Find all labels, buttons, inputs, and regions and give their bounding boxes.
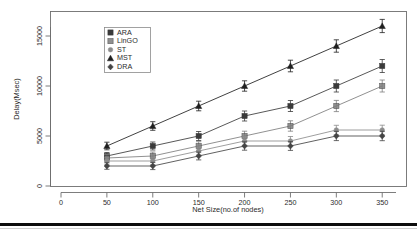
x-axis-title: Net Size(no.of nodes) <box>192 205 263 214</box>
data-point-marker <box>288 123 293 128</box>
data-point-marker <box>242 143 248 149</box>
x-tick-label: 250 <box>284 198 296 207</box>
data-point-marker <box>196 133 201 138</box>
y-tick-label: 0 <box>35 184 44 188</box>
data-point-marker <box>196 103 202 109</box>
legend: ARALinGOSTMSTDRA <box>105 28 151 73</box>
x-tick-label: 0 <box>59 198 63 207</box>
data-point-marker <box>104 163 110 169</box>
y-axis-title: Delay(Msec) <box>12 78 21 119</box>
data-point-marker <box>108 30 113 35</box>
data-point-marker <box>196 153 202 159</box>
x-axis: 050100150200250300350 Net Size(no.of nod… <box>59 193 396 215</box>
figure-canvas: 050001000015000 Delay(Msec) 050100150200… <box>0 0 417 237</box>
bottom-faint-divider <box>0 228 417 229</box>
data-point-marker <box>333 43 339 49</box>
data-point-marker <box>380 63 385 68</box>
bottom-divider <box>0 223 417 226</box>
data-point-marker <box>150 123 156 129</box>
data-point-marker <box>334 133 340 139</box>
x-tick-label: 350 <box>376 198 388 207</box>
data-point-marker <box>108 39 113 44</box>
x-tick-label: 300 <box>330 198 342 207</box>
data-point-marker <box>242 113 247 118</box>
data-point-marker <box>379 133 385 139</box>
data-point-marker <box>104 143 110 149</box>
x-tick-label: 100 <box>147 198 159 207</box>
data-point-marker <box>334 103 339 108</box>
y-tick-label: 15000 <box>35 26 44 46</box>
data-point-marker <box>108 47 113 52</box>
data-point-marker <box>150 163 156 169</box>
data-point-marker <box>241 83 247 89</box>
data-point-marker <box>380 83 385 88</box>
data-point-marker <box>379 23 385 29</box>
data-point-marker <box>287 63 293 69</box>
delay-vs-netsize-chart: 050001000015000 Delay(Msec) 050100150200… <box>0 0 417 237</box>
data-point-marker <box>288 103 293 108</box>
y-tick-label: 5000 <box>35 128 44 144</box>
legend-item-label: DRA <box>117 62 132 71</box>
y-tick-label: 10000 <box>35 76 44 96</box>
data-point-marker <box>150 143 155 148</box>
data-point-marker <box>288 143 294 149</box>
data-point-marker <box>334 83 339 88</box>
x-tick-label: 50 <box>103 198 111 207</box>
y-axis: 050001000015000 Delay(Msec) <box>12 26 51 188</box>
